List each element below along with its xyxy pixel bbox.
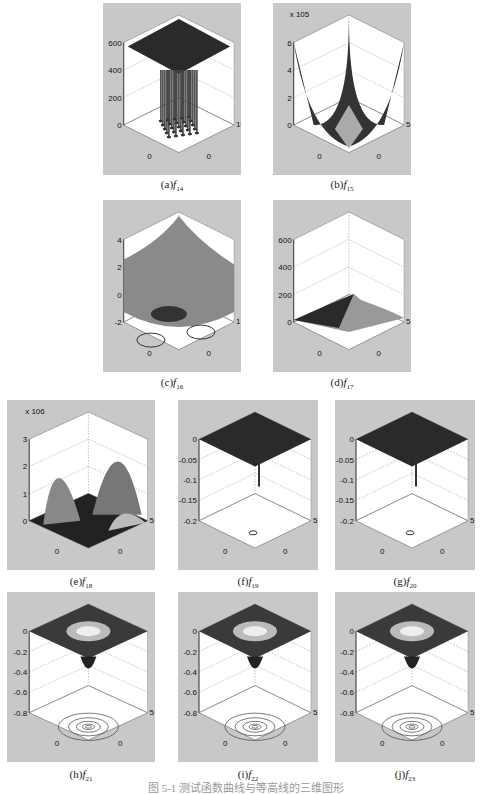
svg-text:0: 0 bbox=[55, 547, 60, 556]
svg-text:100: 100 bbox=[236, 120, 241, 129]
plot-a: 02004006001000-100-1000x1x2 bbox=[103, 3, 241, 175]
svg-text:0: 0 bbox=[23, 517, 28, 526]
svg-text:-0.2: -0.2 bbox=[340, 517, 354, 526]
svg-text:5: 5 bbox=[406, 120, 411, 129]
svg-text:5: 5 bbox=[470, 516, 475, 525]
svg-text:-0.6: -0.6 bbox=[13, 688, 27, 697]
svg-text:0: 0 bbox=[380, 547, 385, 556]
svg-text:-0.8: -0.8 bbox=[13, 709, 27, 718]
svg-text:4: 4 bbox=[117, 236, 122, 245]
svg-text:0: 0 bbox=[287, 121, 292, 130]
svg-text:0: 0 bbox=[377, 349, 382, 358]
svg-text:-0.05: -0.05 bbox=[179, 456, 198, 465]
subfigure-caption-b: (b)f15 bbox=[273, 178, 411, 193]
plot-f: -0.2-0.15-0.1-0.05050-5-50x1x2 bbox=[178, 400, 318, 570]
svg-text:0: 0 bbox=[440, 547, 445, 556]
subfigure-caption-a: (a)f14 bbox=[103, 178, 241, 193]
svg-text:5: 5 bbox=[313, 708, 318, 717]
svg-text:2: 2 bbox=[23, 462, 28, 471]
svg-text:-0.4: -0.4 bbox=[340, 668, 354, 677]
svg-text:-0.6: -0.6 bbox=[340, 688, 354, 697]
subfigure-caption-e: (e)f18 bbox=[7, 575, 155, 590]
plot-b: 0246x 10550-5-50x1x2 bbox=[273, 3, 411, 175]
svg-text:x 106: x 106 bbox=[25, 407, 45, 416]
svg-text:0: 0 bbox=[193, 627, 198, 636]
svg-text:0: 0 bbox=[147, 152, 152, 161]
figure-caption: 图 5-1 测试函数曲线与等高线的三维图形 bbox=[0, 779, 492, 794]
svg-text:-0.2: -0.2 bbox=[340, 648, 354, 657]
svg-text:600: 600 bbox=[108, 39, 122, 48]
plot-d: 020040060050-5-50x1x2 bbox=[273, 200, 411, 372]
svg-text:-0.1: -0.1 bbox=[340, 476, 354, 485]
svg-text:0: 0 bbox=[117, 291, 122, 300]
plot-e: 0123x 10650-5-50x1x2 bbox=[7, 400, 155, 570]
svg-text:0: 0 bbox=[317, 152, 322, 161]
svg-text:-0.2: -0.2 bbox=[13, 648, 27, 657]
svg-text:6: 6 bbox=[287, 39, 292, 48]
svg-text:0: 0 bbox=[283, 739, 288, 748]
subfigure-caption-g: (g)f20 bbox=[335, 575, 475, 590]
svg-text:0: 0 bbox=[377, 152, 382, 161]
subfigure-caption-f: (f)f19 bbox=[178, 575, 318, 590]
svg-text:0: 0 bbox=[23, 627, 28, 636]
svg-text:0: 0 bbox=[283, 547, 288, 556]
svg-text:0: 0 bbox=[223, 547, 228, 556]
svg-text:0: 0 bbox=[317, 349, 322, 358]
svg-text:5: 5 bbox=[406, 317, 411, 326]
svg-text:200: 200 bbox=[108, 94, 122, 103]
plot-c: -202410-1-10x1x2 bbox=[103, 200, 241, 372]
svg-text:600: 600 bbox=[278, 236, 292, 245]
svg-text:0: 0 bbox=[287, 318, 292, 327]
svg-text:-0.8: -0.8 bbox=[340, 709, 354, 718]
svg-text:0: 0 bbox=[193, 435, 198, 444]
svg-text:5: 5 bbox=[150, 516, 155, 525]
svg-text:-0.1: -0.1 bbox=[183, 476, 197, 485]
svg-text:3: 3 bbox=[23, 435, 28, 444]
svg-text:5: 5 bbox=[313, 516, 318, 525]
svg-text:1: 1 bbox=[236, 317, 241, 326]
svg-text:0: 0 bbox=[350, 435, 355, 444]
svg-text:0: 0 bbox=[118, 547, 123, 556]
plot-i: -0.8-0.6-0.4-0.2050-5-50x1x2 bbox=[178, 592, 318, 762]
svg-text:2: 2 bbox=[287, 94, 292, 103]
svg-text:5: 5 bbox=[150, 708, 155, 717]
svg-text:0: 0 bbox=[380, 739, 385, 748]
svg-text:-0.4: -0.4 bbox=[183, 668, 197, 677]
svg-text:-0.05: -0.05 bbox=[336, 456, 355, 465]
svg-text:0: 0 bbox=[118, 739, 123, 748]
svg-text:-2: -2 bbox=[115, 318, 123, 327]
svg-text:0: 0 bbox=[223, 739, 228, 748]
svg-text:-0.6: -0.6 bbox=[183, 688, 197, 697]
svg-text:4: 4 bbox=[287, 66, 292, 75]
svg-text:0: 0 bbox=[207, 152, 212, 161]
svg-text:400: 400 bbox=[108, 66, 122, 75]
svg-text:-0.8: -0.8 bbox=[183, 709, 197, 718]
svg-text:-0.15: -0.15 bbox=[336, 496, 355, 505]
svg-text:0: 0 bbox=[440, 739, 445, 748]
svg-text:1: 1 bbox=[23, 490, 28, 499]
svg-text:-0.2: -0.2 bbox=[183, 517, 197, 526]
svg-text:400: 400 bbox=[278, 263, 292, 272]
svg-text:0: 0 bbox=[147, 349, 152, 358]
svg-text:x 105: x 105 bbox=[290, 10, 310, 19]
svg-text:0: 0 bbox=[350, 627, 355, 636]
svg-text:2: 2 bbox=[117, 263, 122, 272]
plot-g: -0.2-0.15-0.1-0.05050-5-50x1x2 bbox=[335, 400, 475, 570]
plot-h: -0.8-0.6-0.4-0.2050-5-50x1x2 bbox=[7, 592, 155, 762]
svg-text:-0.4: -0.4 bbox=[13, 668, 27, 677]
svg-text:0: 0 bbox=[117, 121, 122, 130]
svg-text:0: 0 bbox=[55, 739, 60, 748]
svg-text:-0.15: -0.15 bbox=[179, 496, 198, 505]
svg-text:0: 0 bbox=[207, 349, 212, 358]
subfigure-caption-d: (d)f17 bbox=[273, 376, 411, 391]
plot-j: -0.8-0.6-0.4-0.2050-5-50x1x2 bbox=[335, 592, 475, 762]
svg-text:5: 5 bbox=[470, 708, 475, 717]
svg-text:-0.2: -0.2 bbox=[183, 648, 197, 657]
svg-text:200: 200 bbox=[278, 291, 292, 300]
subfigure-caption-c: (c)f16 bbox=[103, 376, 241, 391]
